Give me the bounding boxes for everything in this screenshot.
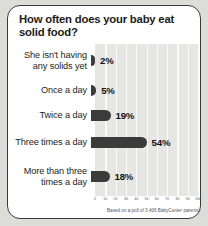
x-axis-tick: 80 — [175, 197, 179, 201]
bar — [91, 85, 96, 96]
bar — [91, 55, 95, 66]
chart-page: How often does your baby eat solid food?… — [0, 0, 208, 226]
x-axis-tick: 20 — [114, 197, 118, 201]
x-axis-tick: 60 — [155, 197, 159, 201]
bar-zone: 18% — [91, 157, 198, 196]
chart-card: How often does your baby eat solid food?… — [7, 5, 201, 219]
x-axis-tick: 0 — [94, 197, 96, 201]
bar-zone: 5% — [91, 77, 198, 103]
bar — [91, 110, 111, 121]
x-axis-tick: 50 — [145, 197, 149, 201]
x-axis: 0102030405060708090100 — [95, 197, 198, 206]
bar-row: Three times a day54% — [12, 128, 198, 157]
bar-rows: She isn't having any solids yet2%Once a … — [12, 44, 198, 196]
x-axis-tick: 40 — [134, 197, 138, 201]
chart-footnote: Based on a poll of 3,406 BabyCenter pare… — [12, 208, 200, 213]
bar-value-label: 19% — [116, 110, 135, 121]
bar-value-label: 18% — [115, 171, 134, 182]
bar-chart: She isn't having any solids yet2%Once a … — [12, 44, 198, 196]
x-axis-tick: 90 — [186, 197, 190, 201]
category-label: Once a day — [12, 85, 91, 96]
x-axis-tick: 100 — [195, 197, 201, 201]
bar-row: Twice a day19% — [12, 103, 198, 128]
bar-row: Once a day5% — [12, 77, 198, 103]
bar — [91, 137, 147, 148]
category-label: Three times a day — [12, 137, 91, 148]
bar-zone: 54% — [91, 128, 198, 157]
x-axis-tick: 10 — [103, 197, 107, 201]
x-axis-tick: 30 — [124, 197, 128, 201]
bar-row: More than three times a day18% — [12, 157, 198, 196]
category-label: More than three times a day — [12, 166, 91, 187]
bar-zone: 2% — [91, 44, 198, 77]
category-label: She isn't having any solids yet — [12, 50, 91, 71]
bar-row: She isn't having any solids yet2% — [12, 44, 198, 77]
bar-value-label: 5% — [101, 85, 114, 96]
x-axis-tick: 70 — [165, 197, 169, 201]
bar-zone: 19% — [91, 103, 198, 128]
bar-value-label: 2% — [100, 55, 113, 66]
bar-value-label: 54% — [152, 137, 171, 148]
bar — [91, 171, 110, 182]
category-label: Twice a day — [12, 110, 91, 121]
page-title: How often does your baby eat solid food? — [19, 13, 191, 39]
gridline — [198, 44, 199, 196]
